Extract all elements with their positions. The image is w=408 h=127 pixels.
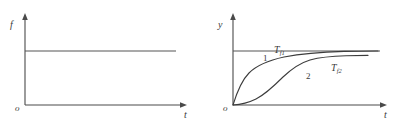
time-constant-1-subscript: f1 xyxy=(280,49,285,56)
time-constant-2-label: Tf2 xyxy=(331,63,342,73)
right-x-axis-arrow-icon xyxy=(380,102,387,108)
right-y-axis-arrow-icon xyxy=(230,13,236,20)
time-constant-2-base: T xyxy=(331,62,337,73)
time-constant-1-label: Tf1 xyxy=(274,45,285,55)
left-x-axis-label: t xyxy=(184,110,187,120)
right-x-axis-label: t xyxy=(384,110,387,120)
left-plot-canvas xyxy=(0,0,204,127)
curve-2-label: 2 xyxy=(306,72,311,81)
response-curve-2 xyxy=(233,55,368,105)
step-response-plot: y t o 1 2 Tf1 Tf2 xyxy=(204,0,408,127)
time-constant-1-base: T xyxy=(274,44,280,55)
curve-1-label: 1 xyxy=(263,54,268,63)
left-y-axis-arrow-icon xyxy=(22,13,28,20)
right-origin-label: o xyxy=(223,104,228,113)
left-y-axis-label: f xyxy=(10,20,13,30)
right-y-axis-label: y xyxy=(218,20,222,30)
left-x-axis-arrow-icon xyxy=(180,102,187,108)
time-constant-2-subscript: f2 xyxy=(337,67,342,74)
figure-root: f t o y t o 1 2 Tf1 Tf2 xyxy=(0,0,408,127)
step-input-plot: f t o xyxy=(0,0,204,127)
left-origin-label: o xyxy=(15,104,20,113)
right-plot-canvas xyxy=(204,0,408,127)
